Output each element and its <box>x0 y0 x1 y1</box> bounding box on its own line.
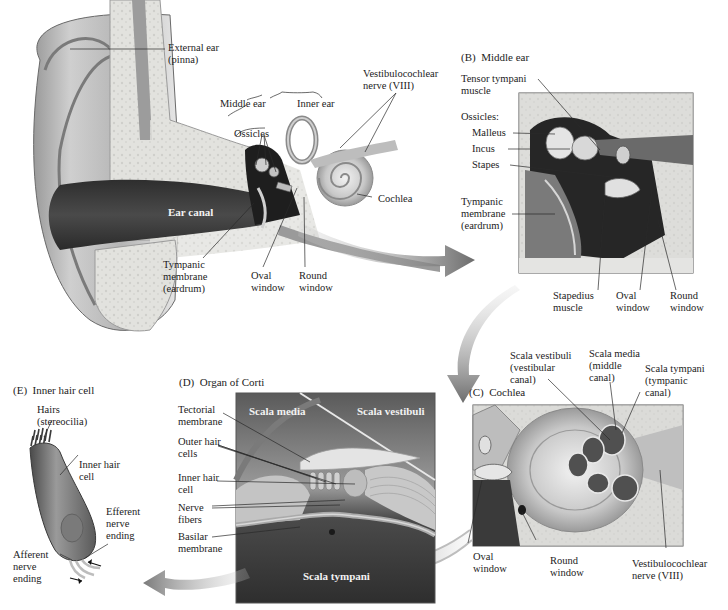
panel-b-title: (B) Middle ear <box>461 51 529 63</box>
label-oval-window-a: Oval window <box>251 270 285 294</box>
arrow-a-to-b <box>298 222 475 277</box>
label-oval-window-b: Oval window <box>616 290 650 314</box>
label-stapes: Stapes <box>472 159 499 171</box>
label-vestibulocochlear-nerve: Vestibulocochlear nerve (VIII) <box>363 68 438 92</box>
label-cochlea: Cochlea <box>378 193 412 205</box>
label-scala-media-c: Scala media (middle canal) <box>589 348 640 384</box>
label-round-window-b: Round window <box>670 290 704 314</box>
label-hairs-stereocilia: Hairs (stereocilia) <box>37 404 87 428</box>
label-middle-ear: Middle ear <box>220 98 266 110</box>
label-scala-vestibuli-c: Scala vestibuli (vestibular canal) <box>510 350 572 386</box>
label-oval-window-c: Oval window <box>473 551 507 575</box>
label-inner-ear: Inner ear <box>297 98 335 110</box>
panel-d-title: (D) Organ of Corti <box>179 376 264 388</box>
label-ear-canal: Ear canal <box>168 206 213 218</box>
label-tympanic-membrane-b: Tympanic membrane (eardrum) <box>461 196 505 232</box>
ear-anatomy-figure: External ear (pinna) Middle ear Inner ea… <box>0 0 728 610</box>
label-malleus: Malleus <box>472 127 506 139</box>
label-basilar-membrane: Basilar membrane <box>178 531 222 555</box>
label-tympanic-membrane-a: Tympanic membrane (eardrum) <box>163 259 207 295</box>
inset-label-scala-vestibuli: Scala vestibuli <box>357 405 425 417</box>
label-tensor-tympani: Tensor tympani muscle <box>461 73 526 97</box>
panel-c-cochlea <box>473 405 683 546</box>
label-efferent-nerve-ending: Efferent nerve ending <box>106 506 140 542</box>
arrow-d-to-e <box>143 568 250 596</box>
panel-e-title: (E) Inner hair cell <box>13 384 94 396</box>
label-round-window-a: Round window <box>299 270 333 294</box>
label-tectorial-membrane: Tectorial membrane <box>178 404 222 428</box>
label-stapedius-muscle: Stapedius muscle <box>553 290 594 314</box>
label-round-window-c: Round window <box>550 555 584 579</box>
inset-label-scala-tympani: Scala tympani <box>303 570 370 582</box>
label-scala-tympani-c: Scala tympani (tympanic canal) <box>645 363 705 399</box>
label-afferent-nerve-ending: Afferent nerve ending <box>13 549 48 585</box>
label-nerve-fibers: Nerve fibers <box>178 502 204 526</box>
label-inner-hair-cell-d: Inner hair cell <box>178 472 219 496</box>
label-ossicles-b: Ossicles: <box>461 111 499 123</box>
label-vestibulocochlear-nerve-c: Vestibulocochlear nerve (VIII) <box>632 558 707 582</box>
label-inner-hair-cell-e: Inner hair cell <box>79 459 120 483</box>
label-external-ear: External ear (pinna) <box>168 42 219 66</box>
inset-label-scala-media: Scala media <box>249 405 306 417</box>
label-outer-hair-cells: Outer hair cells <box>178 436 221 460</box>
panel-c-title: (C) Cochlea <box>469 386 525 398</box>
label-ossicles: Ossicles <box>234 128 269 140</box>
label-incus: Incus <box>472 143 495 155</box>
panel-a-ear-overview <box>34 0 440 331</box>
panel-b-middle-ear <box>519 93 693 273</box>
